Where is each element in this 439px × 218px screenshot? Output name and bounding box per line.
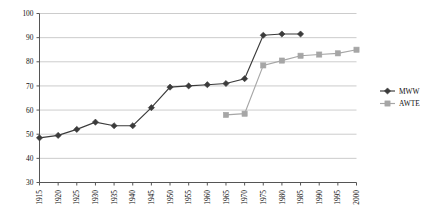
line-chart: 30405060708090100 1915192019251930193519… bbox=[0, 0, 439, 218]
y-tick-label: 90 bbox=[26, 33, 34, 42]
y-tick-label: 40 bbox=[26, 154, 34, 163]
data-point-marker bbox=[261, 63, 266, 68]
y-tick-label: 50 bbox=[26, 130, 34, 139]
x-tick-label: 1995 bbox=[333, 190, 342, 205]
data-point-marker bbox=[242, 111, 247, 116]
y-tick-label: 30 bbox=[26, 178, 34, 187]
data-point-marker bbox=[335, 51, 340, 56]
y-tick-label: 100 bbox=[22, 9, 33, 18]
data-point-marker bbox=[279, 58, 284, 63]
x-tick-label: 1930 bbox=[91, 190, 100, 205]
x-tick-label: 1975 bbox=[259, 190, 268, 205]
x-tick-label: 1945 bbox=[147, 190, 156, 205]
x-tick-label: 1955 bbox=[184, 190, 193, 205]
y-tick-label: 80 bbox=[26, 57, 34, 66]
x-tick-label: 1990 bbox=[315, 190, 324, 205]
x-tick-label: 1925 bbox=[72, 190, 81, 205]
chart-background bbox=[0, 0, 439, 218]
x-tick-label: 1935 bbox=[110, 190, 119, 205]
x-tick-label: 1985 bbox=[296, 190, 305, 205]
legend-label-awte: AWTE bbox=[399, 99, 420, 108]
x-tick-label: 1965 bbox=[222, 190, 231, 205]
x-tick-label: 2000 bbox=[352, 190, 361, 205]
x-tick-label: 1970 bbox=[240, 190, 249, 205]
x-tick-label: 1950 bbox=[166, 190, 175, 205]
x-tick-label: 1920 bbox=[54, 190, 63, 205]
data-point-marker bbox=[385, 101, 390, 106]
data-point-marker bbox=[354, 47, 359, 52]
y-tick-label: 70 bbox=[26, 82, 34, 91]
chart-container: 30405060708090100 1915192019251930193519… bbox=[0, 0, 439, 218]
data-point-marker bbox=[317, 52, 322, 57]
data-point-marker bbox=[223, 112, 228, 117]
data-point-marker bbox=[298, 53, 303, 58]
x-tick-label: 1915 bbox=[35, 190, 44, 205]
x-tick-label: 1980 bbox=[278, 190, 287, 205]
y-tick-label: 60 bbox=[26, 106, 34, 115]
x-tick-label: 1940 bbox=[128, 190, 137, 205]
legend-label-mww: MWW bbox=[399, 87, 420, 96]
x-tick-label: 1960 bbox=[203, 190, 212, 205]
